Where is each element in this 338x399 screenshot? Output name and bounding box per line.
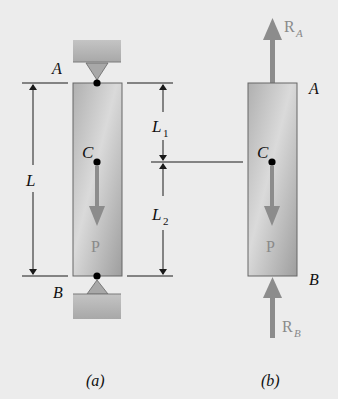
panel-b: R A P C A B R B (b) bbox=[248, 18, 319, 390]
centroid-label-a: C bbox=[82, 143, 94, 162]
centroid-label-b: C bbox=[257, 143, 269, 162]
dimension-L2-subscript: 2 bbox=[163, 215, 169, 227]
reaction-arrow-head-a bbox=[263, 18, 282, 40]
support-label-b: B bbox=[53, 284, 63, 301]
support-label-a: A bbox=[51, 60, 62, 77]
reaction-label-a-sub: A bbox=[295, 27, 303, 39]
load-arrow-shaft-b bbox=[270, 166, 274, 208]
load-label-a: P bbox=[91, 238, 100, 255]
end-label-b: B bbox=[309, 271, 319, 288]
load-arrow-shaft-a bbox=[95, 166, 99, 208]
centroid-dot-b bbox=[268, 158, 275, 165]
caption-b: (b) bbox=[261, 372, 280, 390]
end-label-a: A bbox=[308, 80, 319, 97]
dimension-L1-label: L bbox=[151, 117, 161, 136]
panel-a: P C A B L L 1 L 2 (a) bbox=[22, 40, 243, 390]
reaction-label-b: R bbox=[282, 318, 293, 335]
centroid-dot-a bbox=[93, 158, 100, 165]
dimension-L2-label: L bbox=[151, 205, 161, 224]
dimension-L1-subscript: 1 bbox=[163, 127, 169, 139]
load-label-b: P bbox=[266, 238, 275, 255]
top-support-triangle bbox=[86, 63, 108, 80]
reaction-label-a: R bbox=[284, 18, 295, 35]
bottom-support-triangle bbox=[87, 280, 108, 294]
reaction-arrow-shaft-a bbox=[270, 34, 275, 83]
reaction-arrow-head-b bbox=[263, 277, 282, 298]
reaction-arrow-shaft-b bbox=[270, 296, 275, 338]
top-support-block bbox=[73, 40, 121, 62]
caption-a: (a) bbox=[86, 372, 105, 390]
reaction-label-b-sub: B bbox=[294, 327, 301, 339]
pin-a-top bbox=[93, 79, 100, 86]
pin-b-bottom bbox=[93, 272, 100, 279]
bottom-support-block bbox=[73, 294, 121, 319]
bar-reaction-diagram: P C A B L L 1 L 2 (a) R A bbox=[0, 0, 338, 399]
dimension-L-label: L bbox=[25, 171, 35, 190]
